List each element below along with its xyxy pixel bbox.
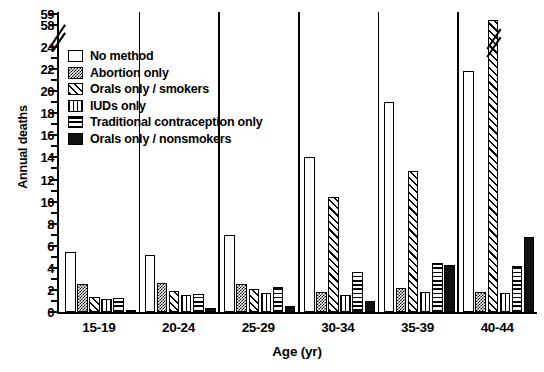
bar: [396, 288, 407, 312]
bar-group: [218, 12, 298, 312]
y-tick: [49, 68, 57, 70]
y-tick: [49, 90, 57, 92]
bar: [352, 272, 363, 312]
bar: [101, 299, 112, 312]
x-tick-label: 15-19: [82, 320, 115, 335]
bar: [408, 171, 419, 312]
bar-group: [298, 12, 378, 312]
bar: [145, 255, 156, 312]
bar: [488, 20, 499, 313]
y-tick-minor: [51, 145, 57, 147]
x-axis-line: [57, 312, 537, 314]
bar: [273, 287, 284, 312]
bar: [193, 294, 204, 312]
y-tick: [49, 24, 57, 26]
bar: [169, 291, 180, 312]
bar: [420, 292, 431, 312]
bar: [316, 292, 327, 312]
bar: [89, 297, 100, 312]
y-tick-minor: [51, 212, 57, 214]
x-tick-label: 25-29: [242, 320, 275, 335]
bar: [475, 292, 486, 312]
y-tick: [49, 156, 57, 158]
bar: [432, 263, 443, 312]
x-axis-title: Age (yr): [272, 344, 321, 359]
bar: [500, 293, 511, 312]
bar: [249, 289, 260, 312]
y-tick: [49, 267, 57, 269]
y-tick: [49, 289, 57, 291]
x-tick-label: 30-34: [321, 320, 354, 335]
bar-group: [378, 12, 458, 312]
bar: [463, 71, 474, 312]
bar: [365, 301, 376, 312]
y-tick: [49, 245, 57, 247]
y-tick-minor: [51, 300, 57, 302]
y-tick-minor: [51, 278, 57, 280]
bar-group: [139, 12, 219, 312]
x-tick-label: 20-24: [162, 320, 195, 335]
x-tick-label: 35-39: [401, 320, 434, 335]
y-tick-minor: [51, 234, 57, 236]
y-tick: [49, 179, 57, 181]
bar-group: [59, 12, 139, 312]
bar: [77, 284, 88, 312]
y-tick-minor: [51, 123, 57, 125]
y-tick: [49, 13, 57, 15]
bar: [65, 252, 76, 312]
y-tick: [49, 311, 57, 313]
bar: [113, 298, 124, 312]
y-axis-tick-labels: 0246810121416182022245859: [18, 0, 54, 372]
y-tick: [49, 134, 57, 136]
y-tick-minor: [51, 256, 57, 258]
bar: [384, 102, 395, 312]
y-tick: [49, 112, 57, 114]
bar: [512, 266, 523, 312]
bar: [261, 293, 272, 312]
y-tick: [49, 223, 57, 225]
bar: [157, 283, 168, 312]
y-tick-minor: [51, 57, 57, 59]
bar: [224, 235, 235, 312]
y-tick-minor: [51, 101, 57, 103]
y-tick-minor: [51, 167, 57, 169]
bar: [304, 157, 315, 312]
bar: [328, 197, 339, 312]
bar: [524, 237, 535, 312]
x-tick-label: 40-44: [481, 320, 514, 335]
bar: [340, 295, 351, 312]
y-tick: [49, 201, 57, 203]
bar: [444, 265, 455, 312]
y-tick-minor: [51, 190, 57, 192]
bar-chart: Annual deaths 0246810121416182022245859 …: [0, 0, 544, 372]
bar: [236, 284, 247, 312]
bar-group: [457, 12, 537, 312]
bar: [181, 295, 192, 312]
y-tick-minor: [51, 79, 57, 81]
